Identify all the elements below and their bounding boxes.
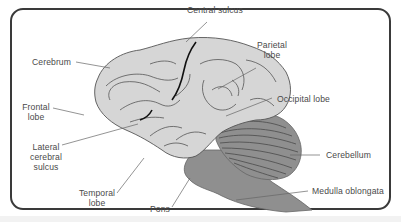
label-medulla-oblongata: Medulla oblongata (312, 186, 384, 196)
label-cerebrum: Cerebrum (32, 57, 71, 67)
label-temporal-lobe: Temporal lobe (77, 188, 117, 208)
diagram-canvas: Central sulcus Cerebrum Parietal lobe Oc… (0, 0, 401, 216)
label-pons: Pons (150, 204, 170, 214)
label-lateral-cerebral-sulcus: Lateral cerebral sulcus (28, 142, 64, 172)
brain-illustration (0, 0, 401, 216)
label-occipital-lobe: Occipital lobe (277, 94, 330, 104)
label-central-sulcus: Central sulcus (187, 5, 243, 15)
label-parietal-lobe: Parietal lobe (256, 40, 288, 60)
label-frontal-lobe: Frontal lobe (20, 102, 52, 122)
label-cerebellum: Cerebellum (326, 150, 371, 160)
